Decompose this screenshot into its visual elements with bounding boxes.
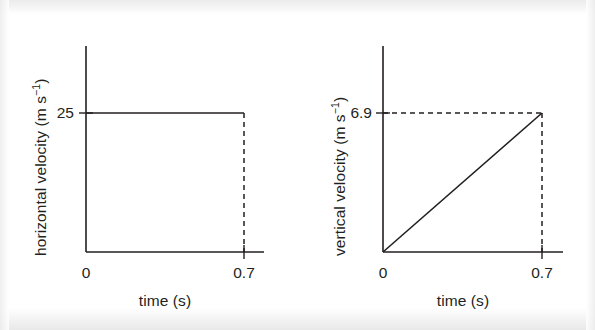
y-axis-title-tail: )	[331, 97, 348, 102]
x-tick-label-0.7: 0.7	[222, 264, 266, 282]
x-tick-label-0: 0	[369, 264, 397, 282]
x-axis-title-time: time (s)	[408, 292, 518, 310]
series-vertical-velocity	[383, 113, 542, 252]
figure-page: horizontal velocity (m s−1) 25 0 0.7 tim…	[0, 0, 595, 330]
y-tick-label-25: 25	[40, 104, 74, 122]
chart-vertical-velocity: vertical velocity (m s−1) 6.9 0 0.7 time…	[298, 0, 595, 330]
y-axis-title-text: vertical velocity (m s	[331, 114, 348, 256]
y-axis-title-tail: )	[32, 78, 49, 83]
x-tick-label-0: 0	[72, 264, 100, 282]
y-axis-title-exponent: −1	[30, 84, 42, 96]
x-axis-title-time: time (s)	[110, 292, 220, 310]
x-tick-label-0.7: 0.7	[520, 264, 564, 282]
y-tick-label-6.9: 6.9	[328, 104, 372, 122]
chart-horizontal-velocity: horizontal velocity (m s−1) 25 0 0.7 tim…	[0, 0, 297, 330]
